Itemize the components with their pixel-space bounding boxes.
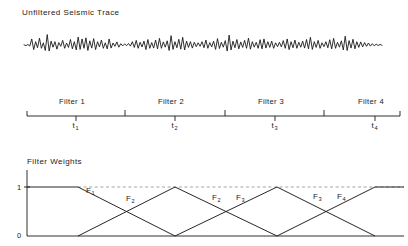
weights-curve-label-1-f1: F1 <box>86 186 95 195</box>
weights-y-label-1: 1 <box>17 183 22 192</box>
timeline-filter-label-4: Filter 4 <box>358 97 384 106</box>
weights-series-f2 <box>78 187 277 236</box>
weights-series-f1 <box>27 187 175 236</box>
timeline-time-label-t2: t2 <box>172 121 178 130</box>
weights-curve-label-2-f2: F2 <box>126 194 135 203</box>
weights-y-label-0: 0 <box>17 231 22 240</box>
timeline-time-label-t4: t4 <box>372 121 378 130</box>
weights-curve-label-3-f2: F2 <box>212 193 221 202</box>
seismic-trace-plot <box>0 0 408 246</box>
weights-curve-label-6-f4: F4 <box>337 192 346 201</box>
seismic-filter-weights-figure: Unfiltered Seismic Trace Filter 1Filter … <box>0 0 408 246</box>
weights-curve-label-4-f3: F3 <box>236 193 245 202</box>
timeline-filter-label-3: Filter 3 <box>258 97 284 106</box>
timeline-filter-label-1: Filter 1 <box>59 97 85 106</box>
timeline-time-label-t3: t3 <box>272 121 278 130</box>
timeline-filter-label-2: Filter 2 <box>158 97 184 106</box>
weights-panel-title: Filter Weights <box>27 157 82 166</box>
weights-curve-label-5-f3: F3 <box>313 192 322 201</box>
timeline-time-label-t1: t1 <box>73 121 79 130</box>
seismic-trace-path <box>24 35 382 52</box>
